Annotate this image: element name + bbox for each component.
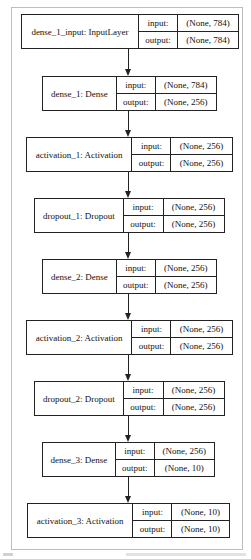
edge-connector (128, 49, 129, 69)
cropped-caption (0, 551, 251, 559)
output-shape: (None, 10) (155, 460, 214, 476)
layer-name: activation_2: Activation (27, 321, 132, 354)
layer-node-activation-3: activation_3: Activation input:(None, 10… (27, 503, 230, 538)
arrow-head-icon (125, 69, 131, 76)
input-shape: (None, 256) (171, 138, 231, 154)
edge-connector (128, 172, 129, 191)
layer-node-dense-3: dense_3: Dense input:(None, 256) output:… (42, 442, 215, 477)
output-shape: (None, 256) (156, 94, 216, 110)
input-shape: (None, 10) (172, 504, 228, 520)
edge-connector (128, 233, 129, 252)
output-shape: (None, 256) (156, 277, 216, 293)
output-shape: (None, 256) (171, 155, 231, 171)
edge-connector (128, 477, 129, 496)
input-label: input: (133, 504, 172, 520)
input-label: input: (124, 382, 164, 398)
input-label: input: (132, 138, 171, 154)
arrow-head-icon (125, 313, 131, 320)
layer-name: dense_3: Dense (43, 443, 116, 476)
input-shape: (None, 256) (156, 260, 216, 276)
output-shape: (None, 10) (172, 521, 228, 537)
output-label: output: (117, 277, 156, 293)
layer-name: activation_3: Activation (28, 504, 133, 537)
output-label: output: (132, 338, 171, 354)
layer-node-dropout-2: dropout_2: Dropout input:(None, 256) out… (34, 381, 225, 416)
output-label: output: (139, 32, 178, 48)
input-label: input: (117, 260, 156, 276)
edge-connector (128, 294, 129, 313)
arrow-head-icon (125, 435, 131, 442)
edge-connector (128, 416, 129, 435)
input-shape: (None, 784) (156, 77, 216, 93)
layer-node-dropout-1: dropout_1: Dropout input:(None, 256) out… (34, 198, 225, 233)
edge-connector (128, 355, 129, 374)
arrow-head-icon (125, 252, 131, 259)
layer-name: dense_2: Dense (43, 260, 117, 293)
input-label: input: (139, 15, 178, 31)
layer-node-activation-1: activation_1: Activation input:(None, 25… (26, 137, 233, 172)
caption-fragment (3, 553, 13, 556)
layer-name: dropout_1: Dropout (35, 199, 124, 232)
layer-name: dense_1_input: InputLayer (22, 15, 139, 48)
layer-name: dropout_2: Dropout (35, 382, 124, 415)
layer-node-activation-2: activation_2: Activation input:(None, 25… (26, 320, 233, 355)
output-shape: (None, 784) (178, 32, 238, 48)
output-label: output: (132, 155, 171, 171)
layer-name: activation_1: Activation (27, 138, 132, 171)
input-label: input: (124, 199, 164, 215)
input-shape: (None, 256) (155, 443, 214, 459)
layer-node-dense-1-input: dense_1_input: InputLayer input:(None, 7… (21, 14, 239, 49)
layer-name: dense_1: Dense (43, 77, 117, 110)
layer-node-dense-2: dense_2: Dense input:(None, 256) output:… (42, 259, 217, 294)
output-label: output: (124, 216, 164, 232)
edge-connector (128, 111, 129, 130)
output-label: output: (117, 94, 156, 110)
input-shape: (None, 256) (171, 321, 231, 337)
arrow-head-icon (125, 374, 131, 381)
input-label: input: (116, 443, 155, 459)
input-shape: (None, 784) (178, 15, 238, 31)
output-label: output: (133, 521, 172, 537)
input-shape: (None, 256) (164, 382, 224, 398)
output-shape: (None, 256) (171, 338, 231, 354)
output-shape: (None, 256) (164, 216, 224, 232)
output-shape: (None, 256) (164, 399, 224, 415)
arrow-head-icon (125, 191, 131, 198)
input-shape: (None, 256) (164, 199, 224, 215)
caption-fragment (126, 553, 246, 556)
input-label: input: (132, 321, 171, 337)
arrow-head-icon (125, 496, 131, 503)
input-label: input: (117, 77, 156, 93)
arrow-head-icon (125, 130, 131, 137)
layer-node-dense-1: dense_1: Dense input:(None, 784) output:… (42, 76, 217, 111)
output-label: output: (116, 460, 155, 476)
output-label: output: (124, 399, 164, 415)
